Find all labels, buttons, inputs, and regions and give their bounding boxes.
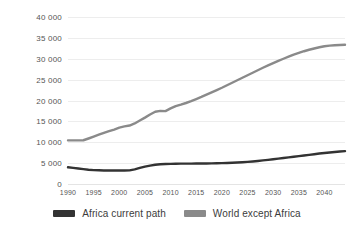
- gridline: [68, 184, 345, 185]
- series-lines: [68, 17, 345, 184]
- legend-label: Africa current path: [82, 208, 166, 219]
- y-axis-tick-label: 40 000: [2, 13, 62, 22]
- legend-swatch-icon: [53, 210, 75, 217]
- y-axis-tick-label: 25 000: [2, 75, 62, 84]
- x-axis-tick-label: 2040: [304, 189, 344, 196]
- legend-item-africa-current-path: Africa current path: [53, 208, 166, 219]
- y-axis-tick-label: 10 000: [2, 138, 62, 147]
- series-line: [68, 151, 345, 170]
- y-axis-tick-label: 35 000: [2, 33, 62, 42]
- legend-item-world-except-africa: World except Africa: [184, 208, 301, 219]
- chart-legend: Africa current path World except Africa: [0, 208, 354, 219]
- legend-swatch-icon: [184, 210, 206, 217]
- y-axis-tick-label: 15 000: [2, 117, 62, 126]
- y-axis-tick-label: 0: [2, 180, 62, 189]
- legend-label: World except Africa: [213, 208, 301, 219]
- income-projection-chart: Average income in 2018 US$ 40 00035 0003…: [0, 0, 354, 239]
- plot-area: [68, 17, 345, 184]
- series-line: [68, 45, 345, 141]
- y-axis-tick-label: 5 000: [2, 159, 62, 168]
- y-axis-tick-label: 20 000: [2, 96, 62, 105]
- y-axis-tick-label: 30 000: [2, 54, 62, 63]
